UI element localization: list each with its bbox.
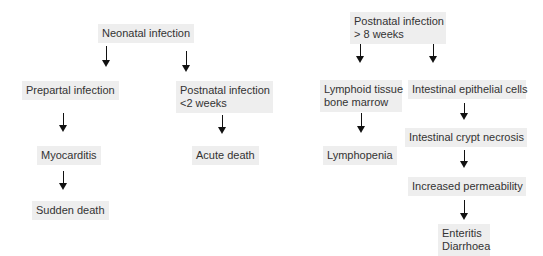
- node-label: Postnatal infection: [180, 84, 269, 97]
- node-lymphopenia: Lymphopenia: [323, 146, 397, 165]
- arrow-down-icon: [102, 46, 110, 68]
- node-label: Intestinal epithelial cells: [412, 83, 528, 95]
- arrow-down-icon: [218, 115, 226, 135]
- node-myocarditis: Myocarditis: [37, 146, 101, 165]
- node-intestinal-epithelial-cells: Intestinal epithelial cells: [408, 80, 526, 99]
- node-lymphoid-tissue: Lymphoid tissue bone marrow: [320, 80, 402, 112]
- arrow-down-icon: [356, 44, 364, 64]
- node-label: Increased permeability: [412, 180, 523, 192]
- node-label: Lymphoid tissue: [324, 83, 398, 96]
- node-label: Diarrhoea: [442, 240, 486, 253]
- node-label: Intestinal crypt necrosis: [409, 131, 524, 143]
- node-label: Lymphopenia: [327, 149, 393, 161]
- node-label: Postnatal infection: [354, 15, 442, 28]
- arrow-down-icon: [182, 51, 190, 73]
- arrow-down-icon: [357, 113, 365, 134]
- node-label: > 8 weeks: [354, 28, 442, 41]
- node-intestinal-crypt-necrosis: Intestinal crypt necrosis: [405, 128, 527, 147]
- node-increased-permeability: Increased permeability: [408, 177, 526, 196]
- node-neonatal-infection: Neonatal infection: [98, 24, 194, 43]
- arrow-down-icon: [59, 113, 67, 133]
- node-label: Neonatal infection: [102, 27, 190, 39]
- node-label: <2 weeks: [180, 97, 269, 110]
- node-label: Prepartal infection: [26, 84, 115, 96]
- node-postnatal-infection-gt8: Postnatal infection > 8 weeks: [350, 12, 446, 44]
- node-label: Enteritis: [442, 227, 486, 240]
- node-prepartal-infection: Prepartal infection: [22, 81, 119, 100]
- node-acute-death: Acute death: [192, 146, 259, 165]
- arrow-down-icon: [460, 150, 468, 169]
- node-label: Acute death: [196, 149, 255, 161]
- node-label: bone marrow: [324, 96, 398, 109]
- node-label: Sudden death: [36, 204, 105, 216]
- arrow-down-icon: [460, 103, 468, 121]
- arrow-down-icon: [59, 171, 67, 191]
- arrow-down-icon: [429, 44, 437, 64]
- node-sudden-death: Sudden death: [32, 201, 109, 220]
- node-enteritis-diarrhoea: Enteritis Diarrhoea: [438, 224, 490, 256]
- node-label: Myocarditis: [41, 149, 97, 161]
- node-postnatal-infection-lt2: Postnatal infection <2 weeks: [176, 81, 273, 113]
- arrow-down-icon: [460, 200, 468, 221]
